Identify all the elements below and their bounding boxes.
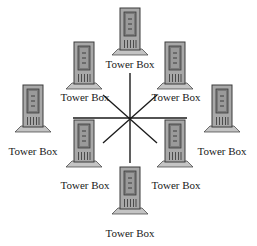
tower-computer-icon [157,42,193,89]
tower-node-upper-right: Tower Box [151,42,201,103]
tower-label: Tower Box [151,91,201,103]
tower-node-upper-left: Tower Box [60,42,110,103]
tower-node-top: Tower Box [105,8,155,70]
tower-computer-icon [66,120,102,167]
tower-computer-icon [112,8,148,55]
tower-label: Tower Box [151,179,201,191]
tower-label: Tower Box [197,145,247,157]
tower-node-bottom: Tower Box [105,167,155,239]
tower-computer-icon [15,85,51,132]
tower-computer-icon [112,167,148,214]
tower-node-left: Tower Box [8,85,58,157]
network-nodes: Tower BoxTower BoxTower BoxTower BoxTowe… [8,8,247,239]
tower-label: Tower Box [105,58,155,70]
tower-label: Tower Box [105,227,155,239]
tower-label: Tower Box [60,91,110,103]
tower-computer-icon [157,120,193,167]
tower-node-right: Tower Box [197,85,247,157]
tower-node-lower-right: Tower Box [151,120,201,191]
star-network-diagram: Tower BoxTower BoxTower BoxTower BoxTowe… [0,0,257,246]
tower-label: Tower Box [60,179,110,191]
tower-node-lower-left: Tower Box [60,120,110,191]
tower-label: Tower Box [8,145,58,157]
tower-computer-icon [204,85,240,132]
tower-computer-icon [66,42,102,89]
